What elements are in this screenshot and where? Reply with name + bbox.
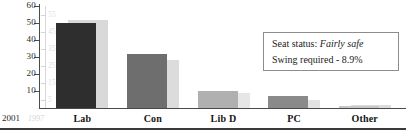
legend-current-year: 2001 — [2, 111, 20, 126]
category-label-other: Other — [329, 111, 400, 126]
election-bar-chart: 55453525155 605040302010 LabConLib DPCOt… — [0, 0, 406, 134]
bottom-rule — [0, 128, 406, 130]
category-label-lib-d: Lib D — [188, 111, 259, 126]
axis-tick-label: 40 — [6, 35, 36, 44]
seat-status-label: Seat status: — [272, 38, 317, 49]
bar-2001-con — [127, 54, 167, 108]
axis-baseline — [39, 108, 406, 109]
bar-2001-other — [339, 106, 379, 108]
axis-tick-label: 50 — [6, 18, 36, 27]
axis-tick-label: 60 — [6, 1, 36, 10]
secondary-axis-tick — [41, 49, 46, 50]
bar-2001-pc — [268, 96, 308, 108]
category-labels: LabConLib DPCOther — [0, 111, 406, 127]
category-label-lab: Lab — [47, 111, 118, 126]
secondary-axis-tick — [41, 32, 46, 33]
secondary-axis-tick — [41, 66, 46, 67]
secondary-axis-tick — [41, 83, 46, 84]
category-label-con: Con — [118, 111, 189, 126]
axis-tick-label: 20 — [6, 69, 36, 78]
axis-tick-label: 30 — [6, 52, 36, 61]
secondary-axis-tick — [41, 100, 46, 101]
bar-2001-lib-d — [198, 91, 238, 108]
swing-required-line: Swing required - 8.9% — [272, 52, 398, 68]
secondary-axis-tick-label: 55 — [48, 11, 66, 19]
seat-status-line: Seat status: Fairly safe — [272, 36, 398, 52]
axis-tick-label: 10 — [6, 86, 36, 95]
secondary-axis-tick — [41, 15, 46, 16]
legend-previous-year: 1997 — [28, 111, 44, 126]
bar-2001-lab — [56, 23, 96, 108]
seat-status-value: Fairly safe — [320, 38, 364, 49]
secondary-axis-line — [45, 6, 46, 108]
category-label-pc: PC — [259, 111, 330, 126]
seat-info-box: Seat status: Fairly safe Swing required … — [263, 32, 399, 71]
